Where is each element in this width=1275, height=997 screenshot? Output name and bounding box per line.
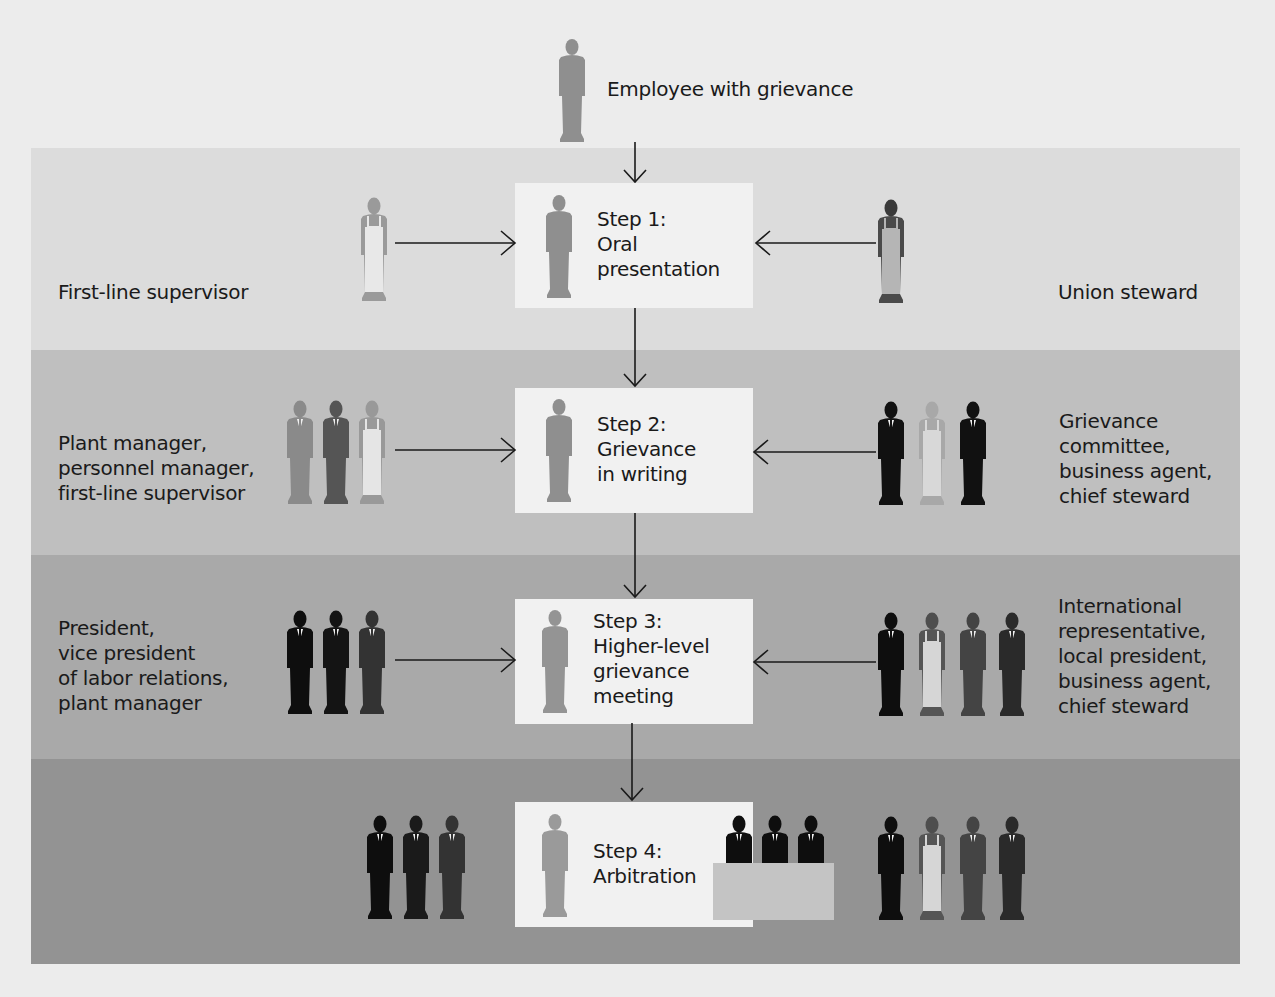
president-figure-icon <box>285 610 315 716</box>
step-2-box: Step 2: Grievance in writing <box>515 388 753 513</box>
employee-figure-icon <box>544 398 574 504</box>
arbitration-table <box>713 863 834 920</box>
arrow-left-icon <box>752 649 876 677</box>
arrow-down-icon <box>617 723 647 802</box>
management-figure-icon <box>437 815 467 921</box>
step-3-box: Step 3: Higher-level grievance meeting <box>515 599 753 724</box>
step-3-text: Step 3: Higher-level grievance meeting <box>593 609 709 709</box>
first-line-supervisor-label: First-line supervisor <box>58 280 248 305</box>
arbitrator-figure-icon <box>760 815 790 863</box>
step-1-box: Step 1: Oral presentation <box>515 183 753 308</box>
plant-manager-figure-icon <box>285 400 315 506</box>
arrow-down-icon <box>620 513 650 599</box>
grievance-committee-figure-icon <box>876 401 906 507</box>
arrow-down-icon <box>620 308 650 388</box>
plant-manager-figure-icon <box>357 610 387 716</box>
employee-figure-icon <box>540 813 570 919</box>
employee-with-grievance-label: Employee with grievance <box>607 77 853 102</box>
union-representative-figure-icon <box>997 816 1027 922</box>
union-representative-figure-icon <box>958 816 988 922</box>
arrow-left-icon <box>752 439 876 467</box>
management-figure-icon <box>365 815 395 921</box>
chief-steward-figure-icon <box>958 401 988 507</box>
international-representative-figure-icon <box>876 612 906 718</box>
local-president-figure-icon <box>917 612 947 718</box>
personnel-manager-figure-icon <box>321 400 351 506</box>
arrow-right-icon <box>395 437 517 465</box>
executives-group-label: President, vice president of labor relat… <box>58 616 228 716</box>
union-steward-figure-icon <box>876 199 906 305</box>
supervisor-figure-icon <box>359 197 389 303</box>
business-agent-figure-icon <box>917 401 947 507</box>
union-representative-figure-icon <box>876 816 906 922</box>
international-union-group-label: International representative, local pres… <box>1058 594 1211 719</box>
arbitrator-figure-icon <box>724 815 754 863</box>
vice-president-figure-icon <box>321 610 351 716</box>
arrow-down-icon <box>620 142 650 184</box>
employee-figure-icon <box>544 194 574 300</box>
arrow-left-icon <box>754 230 876 258</box>
business-agent-figure-icon <box>958 612 988 718</box>
management-group-label: Plant manager, personnel manager, first-… <box>58 431 254 506</box>
first-line-supervisor-figure-icon <box>357 400 387 506</box>
step-2-text: Step 2: Grievance in writing <box>597 412 696 487</box>
employee-figure-icon <box>540 609 570 715</box>
arrow-right-icon <box>395 230 517 258</box>
chief-steward-figure-icon <box>997 612 1027 718</box>
management-figure-icon <box>401 815 431 921</box>
union-group-label: Grievance committee, business agent, chi… <box>1059 409 1212 509</box>
arrow-right-icon <box>395 647 517 675</box>
step-4-text: Step 4: Arbitration <box>593 839 697 889</box>
employee-figure-icon <box>557 38 587 144</box>
union-steward-label: Union steward <box>1058 280 1198 305</box>
step-1-text: Step 1: Oral presentation <box>597 207 720 282</box>
arbitrator-figure-icon <box>796 815 826 863</box>
union-worker-figure-icon <box>917 816 947 922</box>
